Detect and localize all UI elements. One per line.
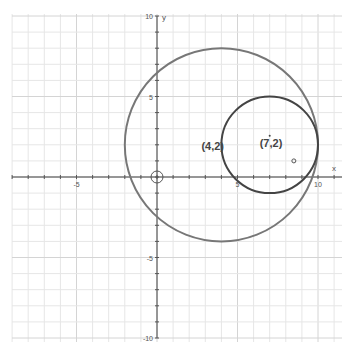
- x-axis-label: x: [332, 164, 336, 173]
- graph-canvas[interactable]: -5510105-5-10xy (4,2)(7,2): [0, 0, 346, 356]
- y-axis-label: y: [162, 13, 166, 22]
- y-tick-label: 10: [145, 13, 153, 20]
- x-tick-label: 10: [314, 181, 322, 188]
- x-tick-label: -5: [73, 181, 79, 188]
- y-tick-label: -5: [147, 255, 153, 262]
- center-point: [269, 135, 271, 137]
- annotations: (4,2)(7,2): [201, 135, 282, 152]
- label-large-center: (4,2): [201, 140, 224, 152]
- grid-lines: [12, 14, 342, 342]
- y-tick-label: 5: [149, 94, 153, 101]
- y-tick-label: -10: [143, 335, 153, 342]
- label-small-center: (7,2): [260, 137, 283, 149]
